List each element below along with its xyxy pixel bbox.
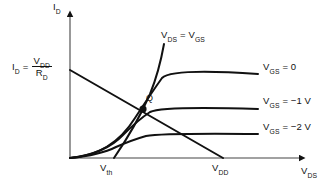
curve-1-subscript: GS [269,102,279,109]
intercept-numerator-symbol: V [34,55,40,66]
intercept-current-symbol: ID [12,62,20,72]
curve-label-vgs-minus2: VGS = −2 V [263,122,311,132]
dc-load-line [70,70,223,158]
curve-2-equation: = −2 V [282,121,311,132]
vth-subscript: th [106,169,112,176]
q-point-marker [139,105,146,112]
curve-0-subscript: GS [269,68,279,75]
x-tick-label-vdd: VDD [212,163,229,173]
x-axis-label: VDS [301,166,317,176]
curve-vgs-minus2 [70,134,258,158]
mosfet-load-line-figure: ID VDS Vth VDD ID = VDD RD VDS = VGS VGS… [0,0,334,187]
x-axis-label-subscript: DS [307,172,317,179]
intercept-i-subscript: D [15,68,20,75]
x-tick-label-vth: Vth [100,163,113,173]
vds-equals-vgs-boundary [114,44,164,158]
curve-1-equation: = −1 V [282,95,311,106]
vdd-subscript: DD [218,169,228,176]
intercept-fraction: VDD RD [32,56,53,77]
boundary-rhs-subscript: GS [195,36,205,43]
y-axis-label-subscript: D [56,8,61,15]
boundary-equals-sign: = [180,29,186,40]
boundary-rhs-symbol: V [188,29,194,40]
boundary-lhs-subscript: DS [167,36,177,43]
intercept-numerator-subscript: DD [40,62,50,69]
boundary-line-label: VDS = VGS [161,30,205,40]
load-line-intercept-label: ID = VDD RD [12,56,52,77]
curve-label-vgs-0: VGS = 0 [263,62,296,72]
intercept-denominator-subscript: D [43,74,48,81]
y-axis-label: ID [53,2,61,12]
q-point-label: Q [146,94,153,103]
curve-label-vgs-minus1: VGS = −1 V [263,96,311,106]
curve-vgs-0 [70,72,258,158]
curve-0-equation: = 0 [282,61,296,72]
intercept-numerator: VDD [32,56,53,66]
intercept-equals-sign: = [23,62,29,72]
curve-2-subscript: GS [269,128,279,135]
